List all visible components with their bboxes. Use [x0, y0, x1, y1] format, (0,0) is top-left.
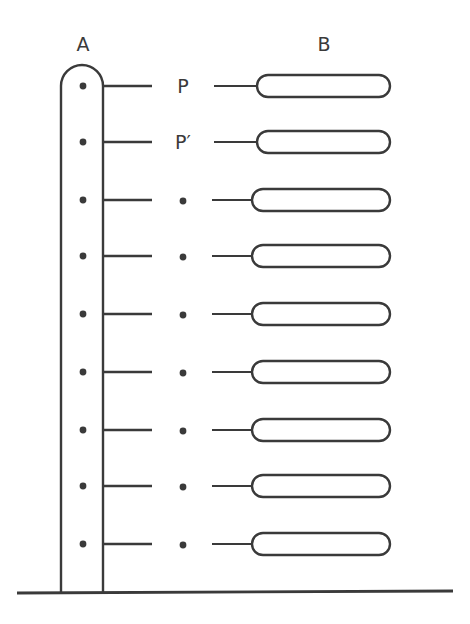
diagram-row: [80, 189, 390, 211]
label-b: B: [317, 33, 330, 55]
row-dot: [180, 198, 187, 205]
tube-b: [257, 75, 390, 97]
tube-b: [252, 303, 390, 325]
tube-b: [252, 533, 390, 555]
tube-a-dot: [80, 369, 87, 376]
diagram-row: P: [80, 75, 390, 97]
diagram-row: [80, 303, 390, 325]
row-dot: [180, 542, 187, 549]
row-dot: [180, 312, 187, 319]
diagram-row: [80, 419, 390, 441]
label-a: A: [77, 33, 90, 55]
tube-b: [257, 131, 390, 153]
diagram-row: [80, 245, 390, 267]
row-label: P: [177, 75, 188, 97]
tube-a-dot: [80, 83, 87, 90]
ground-line: [17, 591, 453, 593]
tube-a-dot: [80, 483, 87, 490]
tube-a-dot: [80, 139, 87, 146]
row-label: P′: [175, 131, 191, 153]
row-dot: [180, 254, 187, 261]
tube-b: [252, 245, 390, 267]
diagram-row: P′: [80, 131, 390, 153]
diagram-row: [80, 475, 390, 497]
diagram-row: [80, 533, 390, 555]
diagram-canvas: A B PP′: [0, 0, 470, 624]
tube-b: [252, 419, 390, 441]
tube-b: [252, 361, 390, 383]
tube-b: [252, 189, 390, 211]
row-dot: [180, 370, 187, 377]
row-dot: [180, 484, 187, 491]
tube-a-dot: [80, 427, 87, 434]
tube-b: [252, 475, 390, 497]
tube-a-dot: [80, 253, 87, 260]
rows-group: PP′: [80, 75, 390, 555]
diagram-row: [80, 361, 390, 383]
tube-a-dot: [80, 541, 87, 548]
tube-a-dot: [80, 197, 87, 204]
row-dot: [180, 428, 187, 435]
tube-a-dot: [80, 311, 87, 318]
